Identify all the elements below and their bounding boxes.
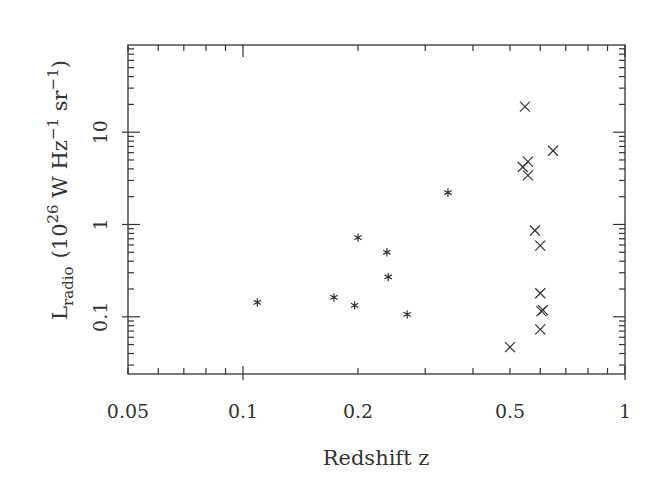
x-tick-label: 0.2 <box>343 400 373 422</box>
asterisk-marker <box>354 233 361 241</box>
asterisk-marker <box>385 273 392 281</box>
x-tick-label: 0.5 <box>495 400 525 422</box>
y-axis-title-main: L <box>48 306 72 320</box>
y-axis-title: Lradio(1026 W Hz−1 sr−1) <box>44 60 77 320</box>
y-axis-title-subscript: radio <box>59 266 77 306</box>
x-tick-label: 1 <box>619 400 631 422</box>
x-tick-label: 0.1 <box>228 400 258 422</box>
asterisk-marker <box>254 298 261 306</box>
y-tick-label: 10 <box>89 120 111 144</box>
y-tick-label: 1 <box>89 218 111 230</box>
y-tick-label: 0.1 <box>89 302 111 332</box>
y-axis-title-unit-sr: sr <box>48 89 72 117</box>
asterisk-marker <box>444 188 451 196</box>
y-axis-title-unit-open: (10 <box>48 223 72 258</box>
x-tick-label: 0.05 <box>107 400 149 422</box>
asterisk-marker <box>404 310 411 318</box>
cross-marker <box>520 102 530 112</box>
cross-marker <box>530 226 540 236</box>
cross-marker <box>518 162 528 172</box>
cross-marker <box>535 241 545 251</box>
cross-marker <box>535 324 545 334</box>
y-axis-ticks <box>122 49 625 365</box>
y-axis-title-exponent-hz: −1 <box>44 118 62 140</box>
plot-frame <box>128 45 625 374</box>
data-markers <box>254 102 558 352</box>
y-axis-title-exponent-sr: −1 <box>44 68 62 90</box>
x-axis-title: Redshift z <box>323 446 430 470</box>
asterisk-marker <box>383 248 390 256</box>
asterisk-marker <box>351 301 358 309</box>
y-axis-title-unit-w-hz: W Hz <box>48 140 72 204</box>
cross-marker <box>505 342 515 352</box>
y-axis-title-unit-close: ) <box>48 60 72 68</box>
cross-marker <box>548 146 558 156</box>
cross-marker <box>523 170 533 180</box>
asterisk-marker <box>330 293 337 301</box>
cross-marker <box>535 288 545 298</box>
y-axis-tick-labels: 0.1110 <box>89 120 111 332</box>
x-axis-tick-labels: 0.050.10.20.51 <box>107 400 631 422</box>
x-axis-ticks <box>128 45 625 380</box>
y-axis-title-exponent: 26 <box>44 204 62 223</box>
scatter-chart: 0.050.10.20.51 0.1110 Redshift z Lradio(… <box>0 0 661 491</box>
